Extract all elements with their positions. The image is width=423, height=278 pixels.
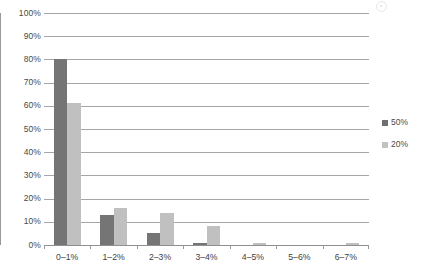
bar <box>100 215 114 245</box>
x-axis-ticks <box>44 245 369 250</box>
x-axis-tick-label: 3–4% <box>183 252 229 263</box>
bar-group <box>239 13 266 245</box>
bar-group <box>332 13 359 245</box>
bar <box>147 233 161 245</box>
y-axis-tick-label: 30% <box>0 171 41 180</box>
bar <box>207 226 221 245</box>
legend-item[interactable]: 20% <box>382 140 423 162</box>
y-axis-tick-label: 0% <box>0 241 41 250</box>
plot-area <box>44 13 369 245</box>
bar-chart: 100%90%80%70%60%50%40%30%20%10%0% 0–1%1–… <box>0 0 423 278</box>
y-axis-tick-label: 50% <box>0 125 41 134</box>
bar <box>54 59 68 245</box>
square-swatch-icon <box>382 120 388 126</box>
x-axis-tick <box>183 245 184 249</box>
legend: 50%20% <box>382 118 423 162</box>
legend-label: 50% <box>391 118 408 127</box>
x-axis-tick-label: 1–2% <box>90 252 136 263</box>
y-axis-tick-label: 20% <box>0 194 41 203</box>
bar <box>160 213 174 245</box>
bar-group <box>147 13 174 245</box>
x-axis-tick <box>323 245 324 249</box>
legend-label: 20% <box>391 140 408 149</box>
x-axis-tick-label: 2–3% <box>137 252 183 263</box>
bar <box>67 103 81 245</box>
y-axis-tick-label: 80% <box>0 55 41 64</box>
square-swatch-icon <box>382 142 388 148</box>
y-axis-tick-label: 100% <box>0 9 41 18</box>
y-axis-line <box>0 13 1 245</box>
x-axis-tick-label: 0–1% <box>44 252 90 263</box>
x-axis-tick-label: 5–6% <box>276 252 322 263</box>
x-axis-tick <box>230 245 231 249</box>
y-axis-tick-label: 90% <box>0 32 41 41</box>
y-axis-tick-label: 10% <box>0 217 41 226</box>
y-axis-tick-labels: 100%90%80%70%60%50%40%30%20%10%0% <box>0 0 41 250</box>
bar-groups <box>44 13 369 245</box>
x-axis-tick <box>137 245 138 249</box>
x-axis-tick <box>276 245 277 249</box>
x-axis-tick <box>368 245 369 249</box>
bar-group <box>54 13 81 245</box>
bar-group <box>100 13 127 245</box>
x-axis-tick <box>90 245 91 249</box>
x-axis-tick-label: 4–5% <box>230 252 276 263</box>
y-axis-tick-label: 40% <box>0 148 41 157</box>
scan-speck-icon <box>376 1 387 12</box>
bar <box>114 208 128 245</box>
y-axis-tick-label: 70% <box>0 78 41 87</box>
y-axis-tick-label: 60% <box>0 101 41 110</box>
bar-group <box>286 13 313 245</box>
x-axis-tick <box>44 245 45 249</box>
legend-item[interactable]: 50% <box>382 118 423 140</box>
x-axis-tick-label: 6–7% <box>323 252 369 263</box>
bar-group <box>193 13 220 245</box>
x-axis-tick-labels: 0–1%1–2%2–3%3–4%4–5%5–6%6–7% <box>44 252 369 270</box>
